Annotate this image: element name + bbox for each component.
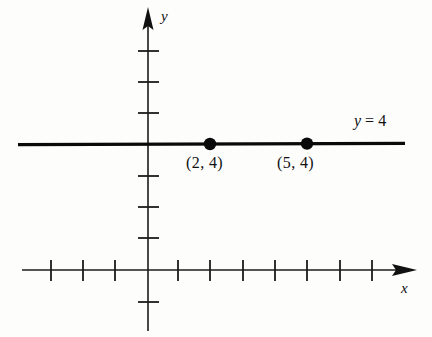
x-axis-label: x [401, 281, 408, 296]
point-label-5-4: (5, 4) [277, 155, 314, 171]
y-axis-label: y [161, 9, 168, 24]
point-label-2-4: (2, 4) [186, 155, 223, 171]
coordinate-plane-figure: y x y = 4 (2, 4) (5, 4) [0, 0, 432, 337]
x-axis-group [22, 260, 417, 281]
equation-rest: = 4 [365, 112, 386, 129]
data-point-2-4 [204, 138, 216, 150]
data-point-5-4 [301, 137, 313, 149]
equation-label: y = 4 [354, 113, 386, 129]
function-line-group [18, 137, 405, 150]
y-axis-group [138, 7, 159, 331]
